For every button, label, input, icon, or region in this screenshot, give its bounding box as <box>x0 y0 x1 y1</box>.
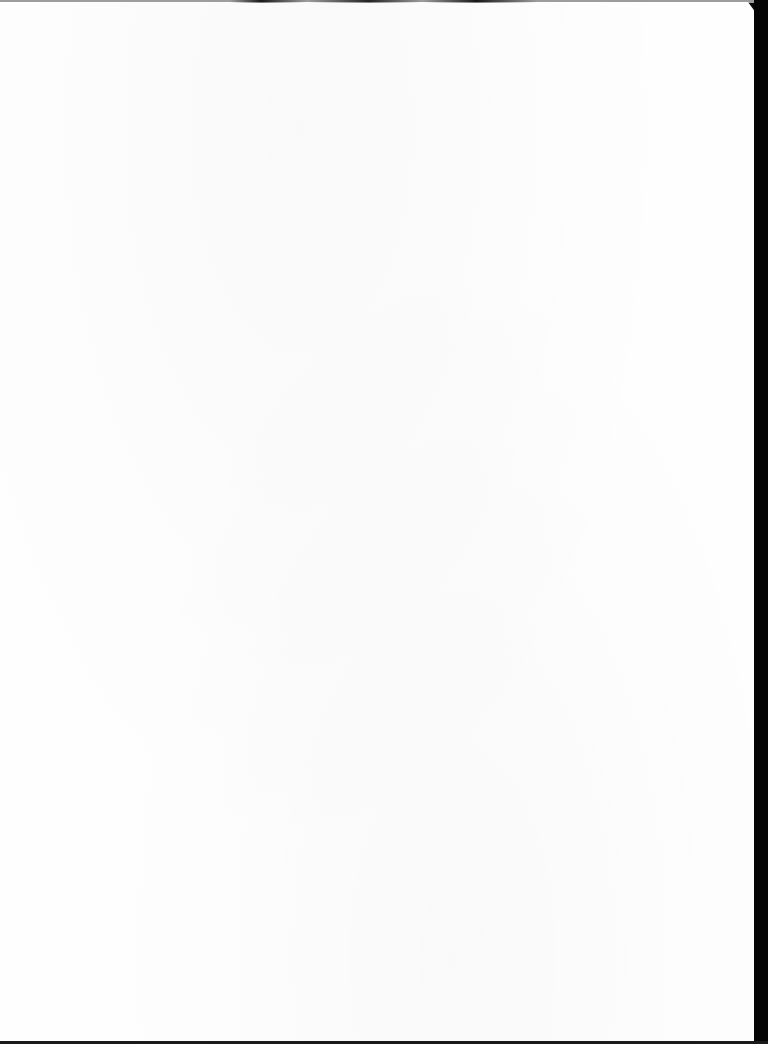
blank-page <box>0 2 754 1041</box>
scanned-document <box>0 0 768 1044</box>
scanner-top-edge <box>0 0 768 3</box>
scanner-right-border <box>754 0 768 1044</box>
